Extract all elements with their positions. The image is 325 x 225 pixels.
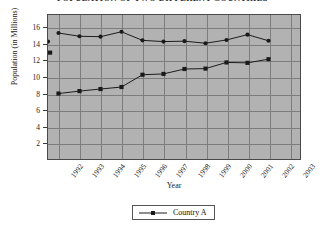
y-tick-label: 4 [36,122,40,131]
data-point-marker [203,41,207,45]
data-point-marker [266,39,270,43]
x-tick-label: 2002 [280,162,296,179]
x-tick-label: 1996 [153,162,169,179]
data-point-marker [77,89,81,93]
data-point-marker [140,38,144,42]
chart-title: POPULATION OF TWO DIFFERENT COUNTRIES [0,0,325,3]
x-tick-label: 1997 [174,162,190,179]
x-tick-label: 1994 [111,162,127,179]
data-point-marker [224,38,228,42]
plot-area [47,14,301,160]
data-point-marker [266,57,270,61]
x-tick-label: 1993 [90,162,106,179]
population-line-chart: POPULATION OF TWO DIFFERENT COUNTRIES Po… [0,0,325,225]
data-point-marker [98,35,102,39]
data-point-marker [161,72,165,76]
x-axis-title: Year [47,181,301,190]
y-tick-label: 12 [33,56,41,65]
data-point-marker [119,85,123,89]
data-point-marker [182,39,186,43]
data-point-marker [77,34,81,38]
data-point-marker [48,51,52,55]
y-tick-label: 8 [36,89,40,98]
x-tick-label: 2001 [259,162,275,179]
y-tick-label: 6 [36,106,40,115]
series-line [58,59,268,93]
x-tick-label: 1998 [195,162,211,179]
y-tick-label: 10 [33,73,41,82]
data-point-marker [182,67,186,71]
data-point-marker [161,40,165,44]
x-tick-label: 1992 [68,162,84,179]
y-tick-label: 2 [36,139,40,148]
data-point-marker [48,40,50,44]
y-tick-label: 16 [33,23,41,32]
data-series-layer [48,15,300,159]
legend-label-country-a: Country A [173,208,207,217]
data-point-marker [203,67,207,71]
y-tick-label: 14 [33,39,41,48]
data-point-marker [119,30,123,34]
data-point-marker [56,31,60,35]
x-tick-label: 1995 [132,162,148,179]
data-point-marker [140,73,144,77]
chart-legend: Country A [132,205,215,220]
y-axis-ticks: 246810121416 [0,14,47,160]
x-tick-label: 2000 [238,162,254,179]
legend-line-marker-icon [138,209,168,217]
data-point-marker [245,33,249,37]
data-point-marker [56,91,60,95]
data-point-marker [98,87,102,91]
data-point-marker [245,61,249,65]
x-tick-label: 2003 [301,162,317,179]
data-point-marker [224,60,228,64]
x-tick-label: 1999 [217,162,233,179]
